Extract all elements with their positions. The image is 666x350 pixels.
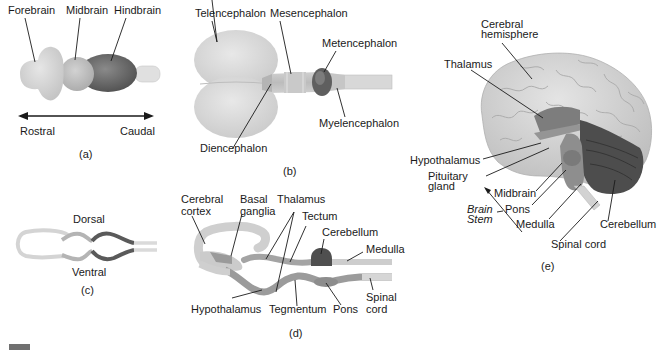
label-midbrain: Midbrain bbox=[66, 4, 108, 16]
panel-e: Cerebral hemisphere Thalamus Hypothalamu… bbox=[410, 18, 656, 272]
label-thalamus: Thalamus bbox=[444, 58, 493, 70]
rostral-caudal-arrow bbox=[18, 112, 154, 120]
label-hypothalamus: Hypothalamus bbox=[191, 303, 262, 315]
label-thalamus: Thalamus bbox=[277, 193, 326, 205]
label-forebrain: Forebrain bbox=[8, 4, 55, 16]
label-hypothalamus: Hypothalamus bbox=[410, 154, 481, 166]
label-metencephalon: Metencephalon bbox=[322, 37, 397, 49]
panel-c: Dorsal Ventral (c) bbox=[18, 213, 157, 296]
label-brain-stem-2: Stem bbox=[467, 213, 493, 225]
label-tectum: Tectum bbox=[302, 210, 337, 222]
label-diencephalon: Diencephalon bbox=[200, 142, 267, 154]
caption-d: (d) bbox=[289, 327, 302, 339]
midbrain-tube-dorsal bbox=[62, 234, 92, 241]
panel-a: Forebrain Midbrain Hindbrain Rostral Cau… bbox=[8, 4, 161, 160]
label-rostral: Rostral bbox=[20, 125, 55, 137]
corner-marker-bar bbox=[9, 344, 30, 350]
label-basal-ganglia-2: ganglia bbox=[240, 205, 276, 217]
label-medulla: Medulla bbox=[366, 243, 405, 255]
label-ventral: Ventral bbox=[72, 266, 106, 278]
caption-a: (a) bbox=[79, 148, 92, 160]
label-pons: Pons bbox=[333, 303, 359, 315]
forebrain-shape bbox=[20, 47, 64, 101]
label-spinal-cord-1: Spinal bbox=[366, 291, 397, 303]
label-tegmentum: Tegmentum bbox=[269, 303, 326, 315]
label-midbrain: Midbrain bbox=[494, 187, 536, 199]
label-hindbrain: Hindbrain bbox=[114, 4, 161, 16]
label-mesencephalon: Mesencephalon bbox=[270, 7, 348, 19]
hindbrain-tube-ventral bbox=[92, 250, 134, 259]
label-basal-ganglia-1: Basal bbox=[240, 193, 268, 205]
caption-b: (b) bbox=[283, 165, 296, 177]
label-spinal-cord-2: cord bbox=[366, 303, 387, 315]
label-pituitary-2: gland bbox=[428, 180, 455, 192]
pons-shape bbox=[563, 150, 581, 166]
midbrain-shape bbox=[60, 57, 94, 91]
ventral-tube bbox=[225, 270, 392, 292]
label-pons: Pons bbox=[505, 203, 531, 215]
midbrain-tube-ventral bbox=[62, 251, 92, 259]
label-cerebral-cortex-2: cortex bbox=[181, 205, 211, 217]
hindbrain-tube-dorsal bbox=[92, 234, 134, 243]
panel-b: Telencephalon Mesencephalon Metencephalo… bbox=[194, 0, 399, 177]
thalamus-tectum-tube bbox=[244, 257, 312, 263]
label-cerebellum: Cerebellum bbox=[600, 218, 656, 230]
label-dorsal: Dorsal bbox=[73, 213, 105, 225]
pons-shape bbox=[314, 277, 338, 287]
caption-c: (c) bbox=[81, 284, 94, 296]
label-telencephalon: Telencephalon bbox=[195, 7, 266, 19]
spinal-cord-shape bbox=[135, 66, 160, 82]
caption-e: (e) bbox=[541, 260, 554, 272]
panel-d: Cerebral cortex Basal ganglia Thalamus T… bbox=[181, 193, 405, 339]
forebrain-tube bbox=[18, 230, 68, 257]
neuroanatomy-diagram: Forebrain Midbrain Hindbrain Rostral Cau… bbox=[0, 0, 666, 350]
label-spinal-cord: Spinal cord bbox=[551, 238, 606, 250]
label-cerebral-hemisphere-2: hemisphere bbox=[481, 28, 538, 40]
label-myelencephalon: Myelencephalon bbox=[319, 117, 399, 129]
label-caudal: Caudal bbox=[120, 125, 155, 137]
label-medulla: Medulla bbox=[516, 218, 555, 230]
label-cerebellum: Cerebellum bbox=[322, 226, 378, 238]
label-cerebral-cortex-1: Cerebral bbox=[181, 193, 223, 205]
